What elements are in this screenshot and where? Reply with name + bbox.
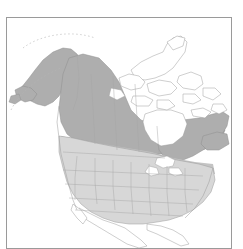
north-america-map <box>7 18 231 248</box>
map-frame <box>6 17 232 249</box>
